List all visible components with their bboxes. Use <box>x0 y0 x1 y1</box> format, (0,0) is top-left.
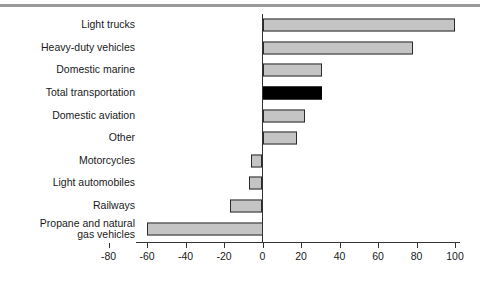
x-axis-tick <box>340 243 341 248</box>
x-axis-tick <box>417 243 418 248</box>
x-axis-tick-label: 40 <box>334 250 346 262</box>
chart-category-row: Other <box>0 127 480 150</box>
category-label: Light trucks <box>0 20 135 32</box>
x-axis-tick-label: -40 <box>178 250 193 262</box>
chart-category-row: Domestic marine <box>0 59 480 82</box>
chart-category-row: Total transportation <box>0 82 480 105</box>
chart-bar <box>251 154 263 167</box>
bar-chart: Light trucksHeavy-duty vehiclesDomestic … <box>0 0 480 292</box>
category-label: Domestic aviation <box>0 110 135 122</box>
x-axis-tick <box>109 243 110 248</box>
category-label: Domestic marine <box>0 65 135 77</box>
plot-area: Light trucksHeavy-duty vehiclesDomestic … <box>0 14 480 242</box>
x-axis-tick <box>378 243 379 248</box>
x-axis-tick <box>224 243 225 248</box>
zero-axis-line <box>262 14 263 242</box>
category-label: Light automobiles <box>0 178 135 190</box>
x-axis-tick-label: -80 <box>101 250 116 262</box>
chart-category-row: Motorcycles <box>0 150 480 173</box>
category-label: Railways <box>0 200 135 212</box>
x-axis-tick-label: 20 <box>295 250 307 262</box>
x-axis-tick <box>147 243 148 248</box>
chart-category-row: Heavy-duty vehicles <box>0 37 480 60</box>
chart-bar <box>147 222 263 235</box>
chart-bar <box>263 87 323 100</box>
chart-category-row: Railways <box>0 195 480 218</box>
category-label: Total transportation <box>0 87 135 99</box>
chart-bar <box>263 64 323 77</box>
chart-bar <box>230 200 263 213</box>
chart-category-row: Domestic aviation <box>0 104 480 127</box>
category-label: Heavy-duty vehicles <box>0 42 135 54</box>
chart-bar <box>263 132 298 145</box>
chart-bar <box>263 109 305 122</box>
x-axis-tick-label: 80 <box>411 250 423 262</box>
x-axis-tick-label: -60 <box>139 250 154 262</box>
x-axis-tick-label: 0 <box>260 250 266 262</box>
x-axis-tick <box>301 243 302 248</box>
x-axis-tick <box>186 243 187 248</box>
top-divider-rule <box>0 4 480 7</box>
chart-category-row: Light trucks <box>0 14 480 37</box>
category-label: Motorcycles <box>0 155 135 167</box>
x-axis-tick <box>263 243 264 248</box>
chart-bar <box>263 19 456 32</box>
category-label: Other <box>0 133 135 145</box>
chart-bar <box>263 41 413 54</box>
x-axis-tick-label: 60 <box>372 250 384 262</box>
category-label: Propane and natural gas vehicles <box>0 217 135 240</box>
chart-category-row: Light automobiles <box>0 172 480 195</box>
x-axis-tick-label: -20 <box>216 250 231 262</box>
x-axis-tick <box>455 243 456 248</box>
chart-category-row: Propane and natural gas vehicles <box>0 217 480 240</box>
chart-bar <box>249 177 262 190</box>
x-axis-tick-label: 100 <box>446 250 464 262</box>
